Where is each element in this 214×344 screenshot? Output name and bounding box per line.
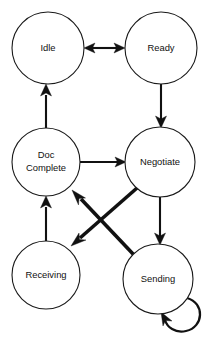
edge-idle-ready	[84, 43, 125, 53]
arrowhead-up	[41, 196, 52, 208]
node-negotiate[interactable]: Negotiate	[125, 127, 195, 197]
edge-doccomplete-negotiate	[80, 157, 126, 167]
edge-negotiate-sending	[155, 197, 166, 245]
edge-receiving-doccomplete	[41, 196, 52, 241]
state-diagram: Idle Ready Doc Complete Negotiate Receiv…	[0, 0, 214, 344]
node-receiving[interactable]: Receiving	[12, 241, 80, 309]
node-sending[interactable]: Sending	[123, 244, 193, 314]
node-idle[interactable]: Idle	[12, 12, 84, 84]
arrowhead-up	[41, 84, 52, 96]
edge-doccomplete-idle	[41, 84, 52, 128]
state-diagram-canvas: Idle Ready Doc Complete Negotiate Receiv…	[0, 0, 214, 344]
node-ready[interactable]: Ready	[125, 12, 197, 84]
edge-ready-negotiate	[156, 84, 167, 128]
node-doc-complete[interactable]: Doc Complete	[12, 128, 80, 196]
